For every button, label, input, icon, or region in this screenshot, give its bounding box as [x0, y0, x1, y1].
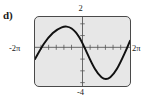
x-min-label: -2π [9, 44, 20, 53]
axes-group [35, 17, 130, 86]
calculator-screen [34, 16, 131, 87]
x-max-label: 2π [132, 44, 141, 53]
y-min-label: -4 [0, 88, 149, 97]
graph-figure: d) 2 -4 -2π 2π [0, 0, 149, 102]
y-max-label: 2 [0, 4, 149, 13]
plot-canvas [35, 17, 130, 86]
